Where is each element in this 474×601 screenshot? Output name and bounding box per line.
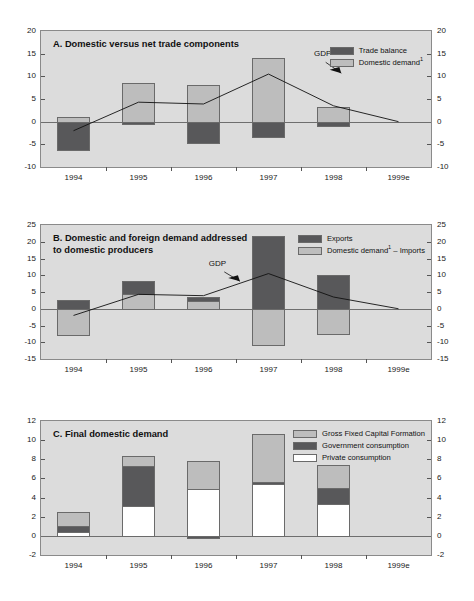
y-axis-tick-label-right: 4 <box>437 494 441 502</box>
chart-panel-c: C. Final domestic demand 121210108866442… <box>0 408 474 578</box>
y-axis-tick-label-right: -10 <box>437 338 449 346</box>
x-axis-tick-label: 1998 <box>325 366 343 374</box>
y-axis-tick-mark <box>41 498 45 499</box>
x-axis-tick-label: 1996 <box>195 174 213 182</box>
x-axis-tick-mark <box>106 167 107 171</box>
y-axis-tick-label-left: -15 <box>24 355 36 363</box>
chart-panel-a: A. Domestic versus net trade components … <box>0 18 474 190</box>
plot-area-c: C. Final domestic demand 121210108866442… <box>40 420 432 556</box>
y-axis-tick-label-right: -2 <box>437 551 444 559</box>
bar-private-consumption <box>252 484 286 537</box>
y-axis-tick-label-right: -10 <box>437 163 449 171</box>
y-axis-tick-label-right: 10 <box>437 271 446 279</box>
legend-label: Domestic demand1 – Imports <box>327 246 425 256</box>
y-axis-tick-label-left: 0 <box>32 532 36 540</box>
plot-area-a: A. Domestic versus net trade components … <box>40 30 432 168</box>
legend-c: Gross Fixed Capital FormationGovernment … <box>293 429 425 465</box>
y-axis-tick-label-left: 15 <box>27 50 36 58</box>
y-axis-tick-label-right: 25 <box>437 221 446 229</box>
y-axis-tick-label-left: 15 <box>27 255 36 263</box>
legend-label: Domestic demand1 <box>359 58 423 68</box>
x-axis-tick-label: 1995 <box>130 562 148 570</box>
legend-label: Gross Fixed Capital Formation <box>322 429 425 439</box>
y-axis-tick-label-left: 4 <box>32 494 36 502</box>
y-axis-tick-label-right: -15 <box>437 355 449 363</box>
x-axis-tick-label: 1994 <box>65 562 83 570</box>
y-axis-tick-label-right: 0 <box>437 118 441 126</box>
bar-government-consumption <box>317 488 351 505</box>
panel-c-title: C. Final domestic demand <box>53 428 168 440</box>
x-axis-tick-label: 1995 <box>130 174 148 182</box>
y-axis-tick-label-right: 5 <box>437 288 441 296</box>
y-axis-tick-label-left: 8 <box>32 455 36 463</box>
y-axis-tick-label-right: 6 <box>437 474 441 482</box>
x-axis-tick-label: 1997 <box>260 562 278 570</box>
bar-government-consumption <box>57 526 91 533</box>
y-axis-tick-mark <box>427 459 431 460</box>
y-axis-tick-label-right: 2 <box>437 513 441 521</box>
legend-swatch-icon <box>293 430 317 438</box>
y-axis-tick-label-left: 10 <box>27 436 36 444</box>
y-axis-tick-label-right: 12 <box>437 417 446 425</box>
bar-private-consumption <box>187 489 221 536</box>
legend-swatch-icon <box>293 442 317 450</box>
y-axis-tick-label-left: -2 <box>29 551 36 559</box>
y-axis-tick-label-right: 5 <box>437 95 441 103</box>
x-axis-tick-label: 1999e <box>387 366 409 374</box>
x-axis-tick-label: 1999e <box>387 174 409 182</box>
x-axis-tick-mark <box>301 359 302 363</box>
x-axis-tick-label: 1998 <box>325 174 343 182</box>
y-axis-tick-label-right: 0 <box>437 532 441 540</box>
y-axis-tick-label-right: 15 <box>437 255 446 263</box>
legend-item: Government consumption <box>293 441 425 451</box>
x-axis-tick-mark <box>106 555 107 559</box>
y-axis-tick-label-left: 2 <box>32 513 36 521</box>
legend-a: Trade balanceDomestic demand1 <box>330 46 423 70</box>
y-axis-tick-mark <box>427 517 431 518</box>
x-axis-tick-label: 1994 <box>65 174 83 182</box>
legend-swatch-icon <box>298 247 322 255</box>
y-axis-tick-label-left: -5 <box>29 322 36 330</box>
y-axis-tick-label-left: -10 <box>24 338 36 346</box>
legend-item: Domestic demand1 <box>330 58 423 68</box>
legend-b: ExportsDomestic demand1 – Imports <box>298 234 425 258</box>
legend-label: Private consumption <box>322 453 391 463</box>
y-axis-tick-label-right: 10 <box>437 72 446 80</box>
legend-swatch-icon <box>330 47 354 55</box>
zero-axis-line <box>41 536 431 537</box>
x-axis-tick-mark <box>366 167 367 171</box>
y-axis-tick-label-left: 0 <box>32 305 36 313</box>
x-axis-tick-mark <box>366 359 367 363</box>
legend-item: Domestic demand1 – Imports <box>298 246 425 256</box>
x-axis-tick-mark <box>366 555 367 559</box>
y-axis-tick-mark <box>427 478 431 479</box>
legend-swatch-icon <box>298 235 322 243</box>
legend-item: Gross Fixed Capital Formation <box>293 429 425 439</box>
y-axis-tick-label-left: 0 <box>32 118 36 126</box>
y-axis-tick-label-left: 10 <box>27 271 36 279</box>
legend-label: Trade balance <box>359 46 407 56</box>
y-axis-tick-mark <box>41 478 45 479</box>
y-axis-tick-mark <box>427 498 431 499</box>
y-axis-tick-mark <box>41 459 45 460</box>
x-axis-tick-label: 1999e <box>387 562 409 570</box>
bar-gross-fixed-capital-formation <box>57 512 91 527</box>
legend-label: Government consumption <box>322 441 409 451</box>
y-axis-tick-label-left: 5 <box>32 288 36 296</box>
x-axis-tick-label: 1995 <box>130 366 148 374</box>
x-axis-tick-label: 1997 <box>260 174 278 182</box>
chart-panel-b: B. Domestic and foreign demand addressed… <box>0 212 474 382</box>
y-axis-tick-label-right: 8 <box>437 455 441 463</box>
y-axis-tick-label-left: 12 <box>27 417 36 425</box>
legend-swatch-icon <box>293 454 317 462</box>
figure-root: A. Domestic versus net trade components … <box>0 0 474 601</box>
legend-item: Private consumption <box>293 453 425 463</box>
x-axis-tick-label: 1994 <box>65 366 83 374</box>
bar-gross-fixed-capital-formation <box>187 461 221 490</box>
y-axis-tick-label-left: 10 <box>27 72 36 80</box>
y-axis-tick-mark <box>427 440 431 441</box>
y-axis-tick-label-right: -5 <box>437 322 444 330</box>
y-axis-tick-label-right: 20 <box>437 27 446 35</box>
bar-gross-fixed-capital-formation <box>317 465 351 489</box>
legend-swatch-icon <box>330 59 354 67</box>
